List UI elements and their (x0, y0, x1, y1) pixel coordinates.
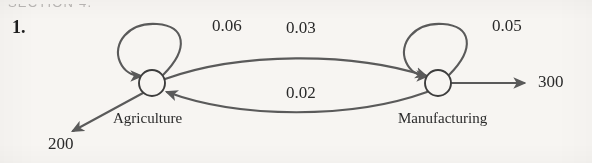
label-flow-manufacturing-output: 300 (538, 72, 564, 92)
node-manufacturing[interactable] (425, 70, 451, 96)
label-self-loop-manufacturing: 0.05 (492, 16, 522, 36)
scanned-page: SECTION 4. 1. (0, 0, 592, 163)
node-label-agriculture: Agriculture (113, 110, 182, 127)
self-loop-agriculture (118, 24, 181, 76)
label-edge-manufacturing-to-agriculture: 0.02 (286, 83, 316, 103)
node-label-manufacturing: Manufacturing (398, 110, 487, 127)
label-self-loop-agriculture: 0.06 (212, 16, 242, 36)
label-edge-agriculture-to-manufacturing: 0.03 (286, 18, 316, 38)
label-flow-agriculture-output: 200 (48, 134, 74, 154)
node-agriculture[interactable] (139, 70, 165, 96)
self-loop-manufacturing (404, 24, 467, 76)
edge-agriculture-to-manufacturing (165, 58, 426, 79)
